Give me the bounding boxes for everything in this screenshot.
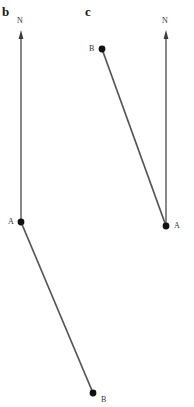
panel-label-c: c	[85, 5, 91, 18]
point-marker-b-c	[99, 46, 106, 53]
north-arrowhead-b	[19, 30, 24, 39]
north-label-c: N	[162, 17, 168, 25]
point-marker-a-c	[163, 223, 170, 230]
point-label-b-b: B	[101, 396, 106, 404]
point-label-a-b: A	[8, 218, 14, 226]
point-marker-a-b	[18, 219, 25, 226]
segment-ba-c	[102, 49, 166, 226]
diagram-svg	[0, 0, 194, 407]
figure-canvas: b c N A B N B A	[0, 0, 194, 407]
north-arrowhead-c	[164, 30, 169, 39]
point-label-a-c: A	[174, 222, 180, 230]
panel-label-b: b	[2, 5, 9, 18]
point-marker-b-b	[90, 390, 97, 397]
segment-ab-b	[21, 222, 93, 393]
north-label-b: N	[17, 17, 23, 25]
point-label-b-c: B	[89, 45, 94, 53]
